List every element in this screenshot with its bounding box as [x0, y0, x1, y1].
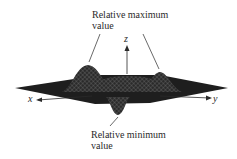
min-leader: [110, 117, 118, 126]
y-axis-arrow-icon: [206, 96, 212, 101]
relative-maximum-label-line1: Relative maximum: [92, 9, 168, 20]
relative-minimum-label-line2: value: [91, 140, 113, 151]
max-leader-right: [143, 34, 159, 69]
surface-diagram: Relative maximum value Relative minimum …: [0, 0, 237, 159]
x-axis-label: x: [28, 93, 32, 104]
relative-minimum-label-line1: Relative minimum: [91, 129, 166, 140]
z-axis-label: z: [124, 33, 128, 44]
z-axis-arrow-icon: [125, 45, 130, 51]
max-leader-left: [89, 34, 100, 62]
relative-minimum-dip: [106, 97, 130, 115]
relative-maximum-label-line2: value: [92, 20, 114, 31]
x-axis-arrow-icon: [36, 98, 42, 103]
y-axis-label: y: [213, 93, 217, 104]
